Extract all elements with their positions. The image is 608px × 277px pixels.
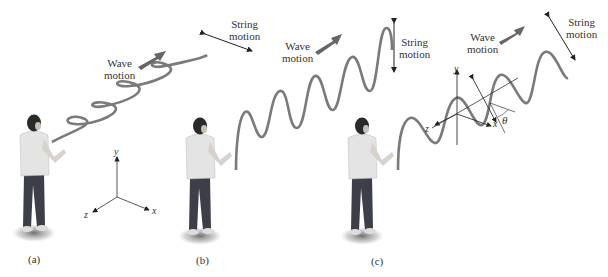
string-motion-label-line1: String bbox=[566, 16, 597, 28]
wave-motion-label-line2: motion bbox=[467, 43, 498, 55]
wave-motion-label-line2: motion bbox=[282, 52, 313, 64]
panel-label-c: (c) bbox=[371, 255, 383, 267]
string-motion-label-line2: motion bbox=[399, 48, 430, 60]
string-motion-label-line1: String bbox=[399, 36, 430, 48]
z-axis-label: z bbox=[84, 210, 88, 220]
z-axis-label: z bbox=[425, 124, 429, 134]
angled-wave-string bbox=[398, 52, 568, 170]
y-axis-label: y bbox=[454, 64, 458, 74]
wave-motion-label: Wave motion bbox=[282, 40, 313, 64]
x-axis-label: x bbox=[493, 119, 497, 129]
panel-c bbox=[340, 17, 575, 245]
string-motion-label-line2: motion bbox=[566, 28, 597, 40]
string-motion-label: String motion bbox=[399, 36, 430, 60]
string-motion-label-line1: String bbox=[229, 18, 260, 30]
y-axis-label: y bbox=[114, 147, 118, 157]
panel-label-a: (a) bbox=[28, 253, 40, 265]
wave-motion-label-line1: Wave bbox=[104, 57, 135, 69]
panel-label-b: (b) bbox=[196, 254, 209, 266]
wave-motion-label: Wave motion bbox=[467, 31, 498, 55]
wave-motion-label-line2: motion bbox=[104, 69, 135, 81]
wave-motion-arrow-icon bbox=[315, 34, 342, 55]
x-axis-label: x bbox=[152, 206, 156, 216]
string-motion-label-line2: motion bbox=[229, 30, 260, 42]
axes-icon bbox=[93, 157, 149, 212]
string-motion-label: String motion bbox=[229, 18, 260, 42]
wave-motion-arrow-icon bbox=[499, 26, 525, 45]
wave-motion-label: Wave motion bbox=[104, 57, 135, 81]
wave-motion-label-line1: Wave bbox=[467, 31, 498, 43]
wave-motion-label-line1: Wave bbox=[282, 40, 313, 52]
axes-icon bbox=[432, 70, 518, 145]
theta-angle-label: θ bbox=[502, 115, 507, 125]
string-motion-label: String motion bbox=[566, 16, 597, 40]
